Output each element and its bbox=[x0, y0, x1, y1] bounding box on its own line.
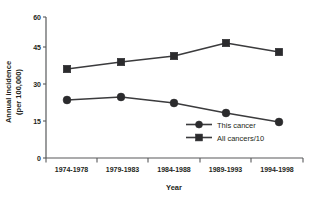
data-point-square-2 bbox=[117, 58, 124, 65]
data-point-square-4 bbox=[222, 39, 229, 46]
legend-marker-square bbox=[196, 134, 203, 141]
x-tick-label-1: 1974-1978 bbox=[55, 166, 89, 173]
y-axis-title: Annual incidence (per 100,000) bbox=[4, 61, 23, 123]
x-axis-tick-labels: 1974-1978 1979-1983 1984-1988 1989-1993 … bbox=[55, 166, 294, 173]
x-tick-label-2: 1979-1983 bbox=[106, 166, 140, 173]
data-point-circle-1 bbox=[63, 96, 71, 104]
data-point-circle-4 bbox=[222, 109, 230, 117]
data-point-square-5 bbox=[275, 48, 282, 55]
x-tick-label-3: 1984-1988 bbox=[157, 166, 191, 173]
data-point-square-1 bbox=[63, 65, 70, 72]
legend-label-all-cancers: All cancers/10 bbox=[217, 134, 264, 143]
x-tick-label-4: 1989-1993 bbox=[209, 166, 243, 173]
x-axis-ticks bbox=[46, 158, 303, 163]
legend-item-this-cancer[interactable]: This cancer bbox=[186, 121, 256, 130]
line-chart: Annual incidence (per 100,000) 60 45 30 … bbox=[0, 0, 315, 197]
data-point-circle-3 bbox=[170, 99, 178, 107]
y-axis-tick-labels: 60 45 30 15 0 bbox=[33, 14, 41, 162]
legend-marker-circle bbox=[196, 121, 203, 128]
y-tick-label-60: 60 bbox=[33, 14, 41, 21]
y-tick-label-15: 15 bbox=[33, 118, 41, 125]
y-axis-title-line2: (per 100,000) bbox=[14, 69, 23, 115]
data-point-circle-2 bbox=[117, 93, 125, 101]
legend-item-all-cancers[interactable]: All cancers/10 bbox=[186, 134, 264, 143]
x-tick-label-5: 1994-1998 bbox=[260, 166, 294, 173]
markers-all-cancers bbox=[63, 39, 282, 72]
chart-container: Annual incidence (per 100,000) 60 45 30 … bbox=[0, 0, 315, 197]
data-point-circle-5 bbox=[275, 118, 283, 126]
y-tick-label-0: 0 bbox=[37, 155, 41, 162]
x-axis-title: Year bbox=[166, 183, 182, 192]
chart-legend: This cancer All cancers/10 bbox=[186, 121, 264, 143]
data-point-square-3 bbox=[170, 52, 177, 59]
y-tick-label-45: 45 bbox=[33, 44, 41, 51]
legend-label-this-cancer: This cancer bbox=[217, 121, 256, 130]
y-tick-label-30: 30 bbox=[33, 81, 41, 88]
y-axis-title-line1: Annual incidence bbox=[4, 61, 13, 123]
